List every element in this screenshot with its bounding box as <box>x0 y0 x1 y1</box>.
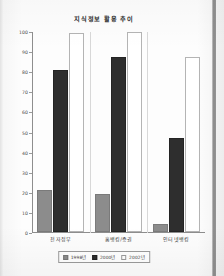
bar <box>37 190 52 232</box>
legend-item: 2000년 <box>92 254 115 260</box>
x-axis-category-label: 인터넷뱅킹 <box>163 235 189 242</box>
y-axis-tick-label: 50 <box>22 130 28 135</box>
y-axis-tick-label: 90 <box>22 50 28 55</box>
legend-label: 1998년 <box>71 254 87 260</box>
bar <box>53 70 68 232</box>
bar <box>185 57 200 232</box>
bars-layer <box>32 32 205 233</box>
bar <box>169 138 184 232</box>
scan-right-edge <box>212 0 216 276</box>
legend-swatch <box>92 255 97 260</box>
scan-right-margin <box>216 0 224 276</box>
y-axis-tick-label: 10 <box>22 210 28 215</box>
plot-area: 0102030405060708090100 전자정부홈뱅킹/증권인터넷뱅킹 <box>32 32 205 233</box>
legend-swatch <box>122 255 127 260</box>
bar <box>95 194 110 232</box>
bar <box>153 224 168 232</box>
y-axis-tick-label: 70 <box>22 90 28 95</box>
legend-item: 2002년 <box>122 254 145 260</box>
bar <box>111 57 126 232</box>
y-axis-tick-label: 80 <box>22 70 28 75</box>
legend-swatch <box>63 255 68 260</box>
chart-legend: 1998년2000년2002년 <box>58 251 150 263</box>
scan-left-edge <box>0 0 3 276</box>
bar <box>127 32 142 232</box>
scanned-chart-page: 지식정보 활용 추이 0102030405060708090100 전자정부홈뱅… <box>0 0 224 276</box>
legend-label: 2000년 <box>100 254 116 260</box>
y-axis-tick-label: 40 <box>22 150 28 155</box>
y-axis-tick-mark <box>29 233 32 234</box>
y-axis-tick-label: 30 <box>22 170 28 175</box>
x-axis-category-label: 홈뱅킹/증권 <box>105 235 133 242</box>
y-axis-tick-label: 100 <box>19 30 28 35</box>
y-axis-tick-label: 0 <box>25 231 28 236</box>
bar <box>69 33 84 232</box>
y-axis-tick-label: 20 <box>22 190 28 195</box>
y-axis-tick-label: 60 <box>22 110 28 115</box>
x-axis-category-label: 전자정부 <box>50 235 71 242</box>
legend-label: 2002년 <box>129 254 145 260</box>
chart-title: 지식정보 활용 추이 <box>0 14 208 23</box>
legend-item: 1998년 <box>63 254 86 260</box>
